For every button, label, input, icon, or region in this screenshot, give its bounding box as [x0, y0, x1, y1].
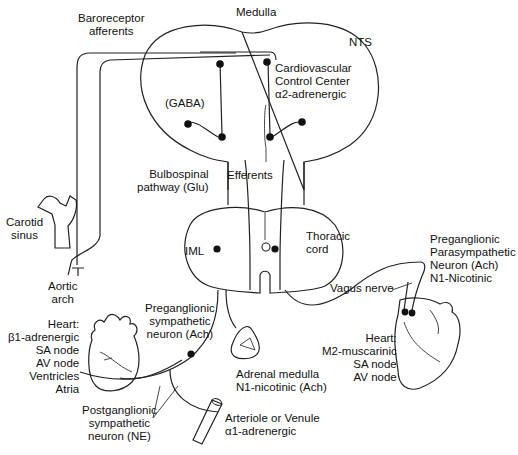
baroreceptor-afferent-inner: [68, 55, 270, 275]
label-vagus-nerve: Vagus nerve: [330, 282, 394, 295]
label-bulbospinal-pathway: Bulbospinal pathway (Glu): [137, 168, 209, 194]
label-gaba: (GABA): [165, 97, 205, 110]
label-preganglionic-parasympathetic: Preganglionic Parasympathetic Neuron (Ac…: [430, 233, 516, 285]
adrenal-gland: [231, 326, 259, 358]
label-cardiovascular-control-center: Cardiovascular Control Center α2-adrener…: [275, 62, 352, 101]
label-thoracic-cord: Thoracic cord: [306, 230, 350, 256]
label-iml: IML: [185, 245, 204, 258]
label-medulla: Medulla: [236, 6, 276, 19]
label-heart-beta1: Heart: β1-adrenergic SA node AV node Ven…: [8, 318, 79, 396]
neuron-iml-right: [271, 245, 278, 252]
neuron-left-lower: [218, 133, 226, 141]
label-heart-m2: Heart: M2-muscarinic SA node AV node: [322, 332, 397, 384]
neuron-vagal-1: [402, 309, 409, 316]
neuron-right-lower: [266, 133, 274, 141]
arteriole-vessel: [193, 397, 223, 444]
neuron-right-upper: [298, 118, 306, 126]
neuron-sympathetic-ganglion: [187, 350, 194, 357]
label-baroreceptor-afferents: Baroreceptor afferents: [78, 12, 144, 38]
neuron-nts-right: [263, 58, 271, 66]
label-arteriole-venule: Arteriole or Venule α1-adrenergic: [225, 412, 320, 438]
label-aortic-arch: Aortic arch: [48, 280, 77, 306]
central-canal: [262, 243, 270, 251]
neuron-vagal-2: [409, 310, 416, 317]
label-adrenal-medulla: Adrenal medulla N1-nicotinic (Ach): [236, 368, 327, 394]
label-postganglionic-sympathetic: Postganglionic sympathetic neuron (NE): [82, 404, 157, 443]
label-preganglionic-sympathetic: Preganglionic sympathetic neuron (Ach): [145, 302, 215, 341]
label-carotid-sinus: Carotid sinus: [6, 216, 43, 242]
neuron-iml-left: [213, 245, 220, 252]
label-nts: NTS: [349, 36, 372, 49]
label-efferents: Efferents: [227, 169, 273, 182]
neuron-gaba: [184, 120, 192, 128]
neuron-nts-left: [216, 60, 224, 68]
carotid-sinus-vessel: [38, 196, 77, 248]
